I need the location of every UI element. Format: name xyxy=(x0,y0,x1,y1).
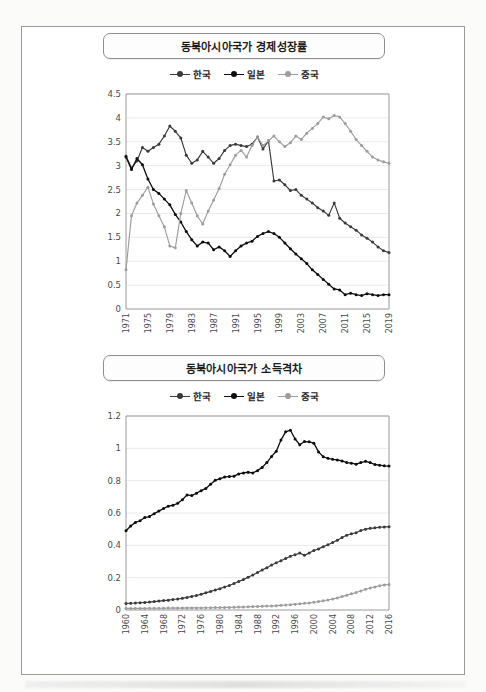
x-axis-tick-label: 1972 xyxy=(178,614,187,634)
data-point xyxy=(322,115,325,118)
data-point xyxy=(261,605,264,608)
data-point xyxy=(341,595,344,598)
data-point xyxy=(341,459,344,462)
data-point xyxy=(350,532,353,535)
y-axis-tick-label: 2 xyxy=(116,208,121,218)
data-point xyxy=(237,606,240,609)
data-point xyxy=(139,607,142,610)
data-point xyxy=(125,602,128,605)
data-point xyxy=(388,251,391,254)
data-point xyxy=(242,605,245,608)
data-point xyxy=(322,599,325,602)
data-point xyxy=(345,594,348,597)
data-point xyxy=(289,429,292,432)
data-point xyxy=(204,606,207,609)
data-point xyxy=(360,144,363,147)
data-point xyxy=(196,158,199,161)
data-point xyxy=(195,594,198,597)
data-point xyxy=(152,146,155,149)
data-point xyxy=(316,122,319,125)
data-point xyxy=(383,583,386,586)
data-point xyxy=(157,600,160,603)
legend-growth-rate: 한국 일본 중국 xyxy=(22,67,466,81)
data-point xyxy=(240,149,243,152)
x-axis-tick-label: 2008 xyxy=(347,614,356,634)
x-axis-tick-label: 1988 xyxy=(254,614,263,634)
data-point xyxy=(148,515,151,518)
data-point xyxy=(167,599,170,602)
y-axis-tick-label: 3 xyxy=(116,161,121,171)
data-point xyxy=(218,587,221,590)
data-point xyxy=(350,462,353,465)
data-point xyxy=(209,590,212,593)
data-point xyxy=(212,248,215,251)
data-point xyxy=(333,287,336,290)
data-point xyxy=(377,245,380,248)
legend-income-gap: 한국 일본 중국 xyxy=(22,389,466,403)
data-point xyxy=(157,143,160,146)
data-point xyxy=(148,607,151,610)
x-axis-tick-label: 2007 xyxy=(319,313,328,333)
data-point xyxy=(383,525,386,528)
data-point xyxy=(229,163,232,166)
data-point xyxy=(167,607,170,610)
data-point xyxy=(134,602,137,605)
data-point xyxy=(228,584,231,587)
data-point xyxy=(153,600,156,603)
data-point xyxy=(359,589,362,592)
data-point xyxy=(327,117,330,120)
x-axis-tick-label: 1975 xyxy=(144,313,153,333)
data-point xyxy=(300,194,303,197)
x-axis-tick-label: 1980 xyxy=(216,614,225,634)
data-point xyxy=(316,206,319,209)
data-point xyxy=(146,186,149,189)
data-point xyxy=(312,601,315,604)
data-point xyxy=(294,188,297,191)
data-point xyxy=(338,115,341,118)
chart-title-growth-rate: 동북아시아국가 경제성장률 xyxy=(181,38,307,54)
data-point xyxy=(283,145,286,148)
data-point xyxy=(141,163,144,166)
data-point xyxy=(214,606,217,609)
y-axis-tick-label: 3.5 xyxy=(107,137,121,147)
plot-area-income-gap: 00.20.40.60.811.219601964196819721976198… xyxy=(22,410,466,658)
data-point xyxy=(294,253,297,256)
x-axis-tick-label: 1992 xyxy=(272,614,281,634)
data-point xyxy=(377,294,380,297)
data-point xyxy=(176,607,179,610)
data-point xyxy=(336,539,339,542)
legend-entry-china: 중국 xyxy=(278,67,319,81)
data-point xyxy=(284,557,287,560)
data-point xyxy=(289,555,292,558)
data-point xyxy=(207,210,210,213)
data-point xyxy=(378,584,381,587)
data-point xyxy=(157,607,160,610)
data-point xyxy=(371,156,374,159)
data-point xyxy=(209,606,212,609)
data-point xyxy=(355,229,358,232)
data-point xyxy=(237,580,240,583)
y-axis-tick-label: 4.5 xyxy=(107,89,121,99)
data-point xyxy=(152,202,155,205)
data-point xyxy=(294,603,297,606)
data-point xyxy=(355,591,358,594)
data-point xyxy=(200,489,203,492)
data-point xyxy=(317,450,320,453)
data-point xyxy=(141,194,144,197)
data-point xyxy=(270,604,273,607)
data-point xyxy=(261,466,264,469)
legend-marker-japan-icon xyxy=(224,392,244,401)
data-point xyxy=(331,541,334,544)
data-point xyxy=(388,162,391,165)
data-point xyxy=(233,606,236,609)
x-axis-tick-label: 2015 xyxy=(363,313,372,333)
data-point xyxy=(256,571,259,574)
x-axis-tick-label: 2012 xyxy=(366,614,375,634)
series-line-korea xyxy=(126,527,389,604)
data-point xyxy=(371,241,374,244)
data-point xyxy=(223,249,226,252)
data-point xyxy=(195,492,198,495)
data-point xyxy=(279,559,282,562)
data-point xyxy=(326,457,329,460)
legend-entry-korea: 한국 xyxy=(170,67,211,81)
